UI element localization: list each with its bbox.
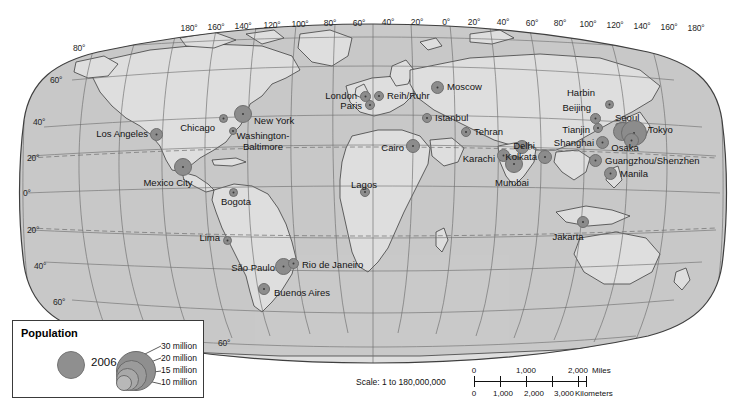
- longitude-label: 180°: [181, 23, 198, 33]
- latitude-label: 60°: [53, 297, 65, 307]
- city-point-icon: [364, 95, 366, 97]
- city-marker[interactable]: [375, 92, 383, 100]
- city-marker[interactable]: [606, 101, 613, 108]
- longitude-label: 80°: [554, 18, 566, 28]
- latitude-label: 40°: [33, 117, 45, 127]
- city-point-icon: [630, 139, 632, 141]
- longitude-label: 60°: [353, 18, 365, 28]
- world-population-map: 180°160°140°120°100°80°60°40°20°0°20°40°…: [0, 0, 746, 411]
- city-label: Beijing: [562, 103, 591, 114]
- city-label: Lagos: [351, 180, 377, 191]
- city-marker[interactable]: [407, 140, 419, 152]
- city-label: Washington-Baltimore: [237, 131, 290, 152]
- city-marker[interactable]: [366, 101, 374, 109]
- city-point-icon: [232, 191, 234, 193]
- city-point-icon: [232, 130, 234, 132]
- scale-miles-unit-label: Miles: [592, 366, 611, 375]
- city-label: Chicago: [180, 123, 215, 134]
- city-marker[interactable]: [578, 217, 588, 227]
- scale-bar-tick: [578, 376, 579, 387]
- longitude-label: 20°: [411, 17, 423, 27]
- scale-bar-tick: [474, 376, 475, 387]
- city-marker[interactable]: [175, 159, 191, 175]
- city-point-icon: [412, 145, 414, 147]
- longitude-label: 180°: [688, 23, 705, 33]
- scale-ratio-text: Scale: 1 to 180,000,000: [356, 377, 446, 387]
- city-marker[interactable]: [259, 284, 269, 294]
- latitude-label: 40°: [34, 261, 46, 271]
- city-label: São Paulo: [231, 263, 275, 274]
- city-marker[interactable]: [230, 189, 237, 196]
- city-point-icon: [364, 191, 366, 193]
- city-point-icon: [465, 131, 467, 133]
- city-point-icon: [594, 159, 596, 161]
- longitude-label: 160°: [661, 22, 678, 32]
- city-label: New York: [254, 116, 294, 127]
- city-point-icon: [502, 154, 504, 156]
- city-label: Cairo: [381, 143, 404, 154]
- city-label: Shanghai: [554, 138, 594, 149]
- longitude-label: 20°: [468, 17, 480, 27]
- longitude-label: 100°: [292, 19, 309, 29]
- population-class-label: 20 million: [161, 353, 197, 363]
- city-marker[interactable]: [591, 114, 600, 123]
- legend-title: Population: [21, 327, 78, 339]
- longitude-label: 140°: [634, 21, 651, 31]
- city-label: Lima: [199, 233, 220, 244]
- city-marker[interactable]: [539, 151, 551, 163]
- latitude-label: 60°: [50, 75, 62, 85]
- city-marker[interactable]: [220, 115, 227, 122]
- city-point-icon: [378, 95, 380, 97]
- population-class-label: 30 million: [161, 341, 197, 351]
- city-label: Osaka: [611, 143, 638, 154]
- scale-bar-tick: [586, 376, 587, 387]
- latitude-label: 60°: [218, 338, 230, 348]
- city-point-icon: [597, 127, 599, 129]
- city-marker[interactable]: [605, 168, 616, 179]
- longitude-label: 40°: [497, 17, 509, 27]
- scale-km-unit-label: Kilometers: [575, 389, 613, 398]
- longitude-label: 0°: [442, 17, 450, 27]
- longitude-label: 60°: [526, 18, 538, 28]
- latitude-label: 20°: [27, 225, 39, 235]
- city-label: Istanbul: [435, 113, 468, 124]
- latitude-label: 80°: [73, 43, 85, 53]
- city-marker[interactable]: [590, 155, 601, 166]
- scale-miles-tick-label: 1,000: [516, 366, 536, 375]
- scale-miles-tick-label: 0: [472, 366, 476, 375]
- city-label: Buenos Aires: [274, 288, 330, 299]
- scale-km-tick-label: 0: [472, 389, 476, 398]
- city-label: Moscow: [447, 82, 482, 93]
- city-marker[interactable]: [594, 124, 602, 132]
- city-marker[interactable]: [224, 237, 231, 244]
- city-marker[interactable]: [432, 82, 443, 93]
- city-point-icon: [609, 172, 611, 174]
- city-point-icon: [608, 103, 610, 105]
- city-marker[interactable]: [230, 128, 236, 134]
- scale-bar-tick: [500, 376, 501, 387]
- city-point-icon: [426, 117, 428, 119]
- longitude-label: 80°: [324, 18, 336, 28]
- city-marker[interactable]: [235, 106, 251, 122]
- city-point-icon: [292, 262, 294, 264]
- city-point-icon: [544, 156, 546, 158]
- city-point-icon: [513, 163, 515, 165]
- latitude-label: 0°: [23, 188, 31, 198]
- city-label: Reih/Ruhr: [387, 91, 430, 102]
- latitude-label: 20°: [27, 153, 39, 163]
- city-point-icon: [182, 166, 184, 168]
- city-marker[interactable]: [151, 129, 162, 140]
- city-marker[interactable]: [462, 128, 470, 136]
- city-label: Manila: [620, 169, 648, 180]
- scale-bar-tick: [526, 376, 527, 387]
- city-point-icon: [601, 141, 603, 143]
- city-point-icon: [582, 221, 584, 223]
- city-point-icon: [155, 133, 157, 135]
- city-marker[interactable]: [423, 114, 431, 122]
- longitude-label: 160°: [208, 22, 225, 32]
- city-marker[interactable]: [597, 137, 608, 148]
- scale-km-tick-label: 2,000: [524, 389, 544, 398]
- scale-km-tick-label: 1,000: [493, 389, 513, 398]
- city-label: Paris: [340, 101, 362, 112]
- city-marker[interactable]: [289, 259, 298, 268]
